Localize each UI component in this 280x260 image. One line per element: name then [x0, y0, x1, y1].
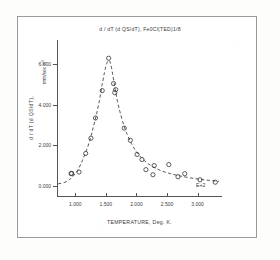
- data-point: [167, 162, 171, 166]
- x-tick-label: 1.500: [100, 201, 113, 207]
- data-point-markers: [69, 56, 217, 184]
- data-point: [183, 172, 187, 176]
- data-point: [128, 138, 132, 142]
- y-tick-label: 2.000: [38, 142, 51, 148]
- y-tick-label: 4.000: [38, 102, 51, 108]
- data-point: [77, 170, 81, 174]
- data-point: [107, 56, 111, 60]
- chart-title: d / dT (d QS/dT), Fe0Cl(TED)1/8: [0, 26, 280, 32]
- y-tick-label: 6.000: [38, 61, 51, 67]
- data-point: [144, 168, 148, 172]
- x-tick-label: 3.000: [191, 201, 204, 207]
- data-point: [151, 173, 155, 177]
- x-tick-label: 1.000: [69, 201, 82, 207]
- x-tick-label: 2.500: [161, 201, 174, 207]
- y-tick-label: 0.000: [38, 183, 51, 189]
- data-point: [84, 151, 88, 155]
- data-series-layer: [57, 40, 222, 197]
- y-axis-title: d / dT (d QS/dT),: [28, 96, 34, 140]
- scanned-plot-page: d / dT (d QS/dT), Fe0Cl(TED)1/8 d / dT (…: [0, 0, 280, 260]
- fit-curve: [58, 60, 219, 183]
- data-point: [111, 81, 115, 85]
- x-tick-label: 2.000: [130, 201, 143, 207]
- data-point: [176, 175, 180, 179]
- x-axis-title: TEMPERATURE, Deg. K.: [57, 219, 222, 225]
- data-point: [89, 136, 93, 140]
- plot-area: 0.0002.0004.0006.000 1.0001.5002.0002.50…: [57, 40, 222, 197]
